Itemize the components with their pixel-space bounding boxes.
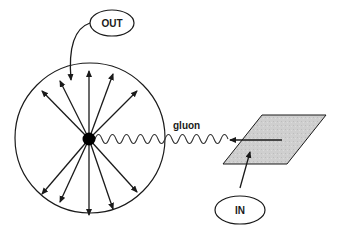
gluon-wavy-line bbox=[95, 135, 228, 144]
out-callout-arrow bbox=[70, 23, 90, 80]
radial-arrows-down bbox=[42, 139, 137, 215]
arrow-up-1 bbox=[42, 91, 89, 139]
arrow-up-4 bbox=[89, 74, 113, 139]
out-label: OUT bbox=[101, 18, 122, 29]
arrow-up-2 bbox=[60, 81, 89, 139]
source-point bbox=[83, 133, 96, 146]
arrow-down-2 bbox=[60, 139, 89, 202]
in-label: IN bbox=[235, 205, 245, 216]
arrow-down-4 bbox=[89, 139, 113, 209]
gluon-emission-diagram: gluon OUT IN bbox=[0, 0, 344, 236]
radial-arrows-up bbox=[42, 71, 137, 139]
arrow-down-5 bbox=[89, 139, 137, 192]
arrow-down-1 bbox=[42, 139, 89, 194]
arrow-up-5 bbox=[89, 91, 137, 139]
gluon-label: gluon bbox=[173, 120, 200, 131]
